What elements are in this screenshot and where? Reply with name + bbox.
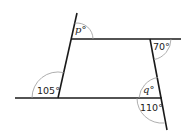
- angle-p-label: p°: [75, 24, 86, 35]
- angle-105-label: 105°: [37, 85, 60, 96]
- angle-q-label: q°: [143, 84, 154, 95]
- angle-diagram: p° 70° 105° q° 110°: [0, 0, 189, 139]
- angle-70-label: 70°: [153, 41, 170, 52]
- angle-110-label: 110°: [140, 102, 163, 113]
